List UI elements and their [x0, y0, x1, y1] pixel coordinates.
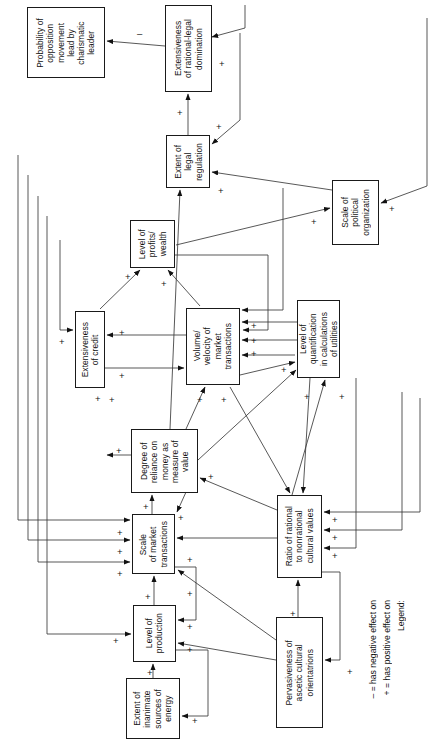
edge-sign: +	[311, 217, 317, 227]
edge-sign: +	[119, 328, 125, 338]
node-label: Extensiveness of credit	[80, 322, 101, 377]
edge-sign: +	[187, 589, 193, 599]
edge-sign: +	[216, 122, 222, 132]
edge-sign: +	[218, 186, 224, 196]
edge-sign: +	[208, 472, 214, 482]
edge-sign: +	[178, 513, 184, 523]
node-extensiveness-of-credit[interactable]: Extensiveness of credit	[75, 311, 105, 388]
edge-sign: +	[290, 609, 296, 619]
node-reliance-on-money[interactable]: Degree of reliance on money as measure o…	[131, 429, 198, 493]
edge-sign: +	[113, 636, 119, 646]
node-ascetic-cultural-orientations[interactable]: Pervasiveness of ascetic cultural orient…	[276, 617, 323, 728]
node-label: Scale of market transactions	[138, 521, 169, 567]
edge-sign: +	[117, 528, 123, 538]
edge-sign: +	[119, 371, 125, 381]
edge-sign: +	[95, 394, 101, 404]
diagram-canvas: Probability of opposition movement lead …	[0, 0, 428, 739]
node-label: Volume/ velocity of market transactions	[192, 323, 233, 369]
node-opposition[interactable]: Probability of opposition movement lead …	[27, 7, 105, 78]
node-rational-legal-domination[interactable]: Extensiveness of rational-legal dominati…	[165, 5, 212, 92]
edge-sign: +	[161, 279, 167, 289]
node-label: Scale of political organization	[340, 189, 371, 236]
edge-sign: +	[117, 547, 123, 557]
edge-sign: +	[389, 204, 395, 214]
node-label: Level of profits/ wealth	[137, 229, 168, 259]
edge-sign: +	[339, 392, 345, 402]
node-label: Level of quantification in calculations …	[298, 312, 339, 366]
edge-sign: +	[177, 108, 183, 118]
edge-sign: +	[197, 395, 203, 405]
edge-sign: +	[192, 716, 198, 726]
node-label: Ratio of rational to nonrational cultura…	[284, 506, 315, 566]
node-scale-of-market-transactions[interactable]: Scale of market transactions	[132, 514, 175, 574]
edge-sign: +	[145, 592, 151, 602]
edge-sign: +	[332, 533, 338, 543]
edge-sign: +	[116, 446, 122, 456]
edge-sign: +	[281, 365, 287, 375]
edge-sign: +	[251, 321, 257, 331]
node-level-of-production[interactable]: Level of production	[133, 605, 176, 662]
edge-sign: +	[251, 349, 257, 359]
edge-sign: +	[187, 622, 193, 632]
edge-sign: +	[59, 337, 65, 347]
edge-sign: +	[347, 667, 353, 677]
edge-sign: +	[221, 395, 227, 405]
legend-heading: Legend:	[396, 600, 407, 631]
edge-sign: +	[187, 555, 193, 565]
edge-sign: –	[137, 29, 142, 39]
legend-negative: – = has negative effect on	[368, 600, 379, 699]
edge-sign: +	[117, 569, 123, 579]
node-label: Extent of legal regulation	[173, 143, 204, 181]
edge-sign: +	[109, 395, 115, 405]
edge-sign: +	[143, 502, 149, 512]
edge-sign: +	[219, 59, 225, 69]
legend-positive: + = has positive effect on	[382, 600, 393, 695]
node-political-organization[interactable]: Scale of political organization	[332, 180, 379, 245]
edge-sign: +	[125, 272, 131, 282]
node-label: Extensiveness of rational-legal dominati…	[173, 19, 204, 78]
node-label: Probability of opposition movement lead …	[35, 18, 97, 68]
node-label: Extent of inanimate sources of energy	[132, 689, 173, 729]
node-label: Level of production	[144, 613, 165, 653]
node-profits-wealth[interactable]: Level of profits/ wealth	[130, 220, 175, 268]
node-level-of-quantification[interactable]: Level of quantification in calculations …	[297, 300, 340, 378]
node-inanimate-energy-sources[interactable]: Extent of inanimate sources of energy	[126, 678, 180, 739]
edge-sign: +	[251, 336, 257, 346]
node-label: Pervasiveness of ascetic cultural orient…	[284, 640, 315, 705]
edge-sign: +	[332, 551, 338, 561]
edge-sign: +	[304, 392, 310, 402]
node-volume-velocity-market-transactions[interactable]: Volume/ velocity of market transactions	[186, 308, 240, 385]
node-legal-regulation[interactable]: Extent of legal regulation	[166, 135, 210, 188]
node-label: Degree of reliance on money as measure o…	[139, 440, 190, 483]
edge-sign: +	[147, 668, 153, 678]
node-ratio-rational-nonrational[interactable]: Ratio of rational to nonrational cultura…	[277, 495, 322, 578]
edge-sign: +	[332, 515, 338, 525]
edge-sign: +	[187, 645, 193, 655]
